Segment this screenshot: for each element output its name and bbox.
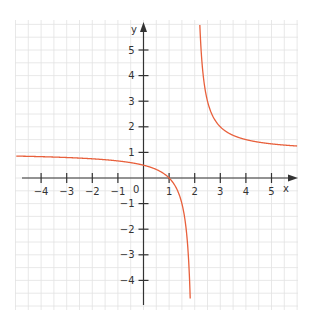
x-tick-label: 4 [243,186,249,197]
y-tick-label: 4 [128,70,134,81]
y-tick-label: −4 [120,275,135,286]
y-axis-arrow-icon [140,22,147,32]
curve-right-branch [200,25,297,146]
x-tick-label: 3 [217,186,223,197]
y-tick-label: 2 [128,121,134,132]
y-tick-label: 3 [128,96,134,107]
x-axis-arrow-icon [288,175,298,182]
x-tick-label: 2 [192,186,198,197]
x-tick-label: −1 [111,186,126,197]
x-tick-label: −3 [59,186,74,197]
x-tick-label: 1 [166,186,172,197]
x-tick-label: −4 [34,186,49,197]
y-axis-label: y [131,24,137,35]
axes [22,22,298,305]
y-tick-label: −3 [120,249,135,260]
x-tick-label: 5 [268,186,274,197]
y-tick-label: −1 [120,198,135,209]
grid [15,20,298,310]
y-tick-label: 1 [128,147,134,158]
x-tick-label: −2 [85,186,100,197]
origin-label: 0 [133,184,139,195]
function-plot: −4−3−2−11234554321−1−2−3−4 x y 0 [0,0,312,320]
y-tick-label: −2 [120,224,135,235]
x-axis-label: x [283,183,289,194]
y-tick-label: 5 [128,45,134,56]
